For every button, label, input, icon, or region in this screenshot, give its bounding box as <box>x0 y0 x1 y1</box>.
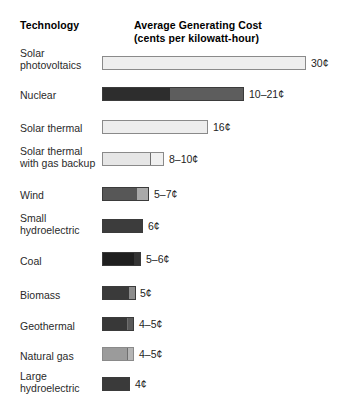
technology-label: Natural gas <box>20 350 74 362</box>
cost-bar <box>102 252 141 266</box>
technology-label: Coal <box>20 255 42 267</box>
cost-value-label: 16¢ <box>213 120 231 134</box>
cost-bar <box>102 317 134 331</box>
cost-bar-segment <box>127 348 133 360</box>
cost-bar <box>102 56 306 70</box>
technology-label: Solar thermal with gas backup <box>20 145 95 169</box>
cost-value-label: 5¢ <box>140 286 152 300</box>
cost-bar-segment <box>137 188 148 200</box>
technology-label: Solar thermal <box>20 122 82 134</box>
technology-label: Nuclear <box>20 89 56 101</box>
cost-bar-segment <box>134 253 140 265</box>
generating-cost-chart: Technology Average Generating Cost (cent… <box>0 0 337 404</box>
cost-bar-segment <box>150 153 163 165</box>
cost-bar <box>102 187 149 201</box>
column-header-cost: Average Generating Cost (cents per kilow… <box>134 19 334 44</box>
cost-bar-segment <box>103 121 207 133</box>
column-header-technology: Technology <box>20 19 79 32</box>
cost-value-label: 4¢ <box>135 377 147 391</box>
cost-bar <box>102 219 143 233</box>
cost-bar-segment <box>103 287 129 299</box>
cost-bar-segment <box>103 318 127 330</box>
chart-subtitle: (cents per kilowatt-hour) <box>134 32 334 45</box>
technology-label: Biomass <box>20 289 60 301</box>
cost-value-label: 10–21¢ <box>249 87 284 101</box>
cost-value-label: 30¢ <box>311 56 329 70</box>
cost-value-label: 4–5¢ <box>139 347 162 361</box>
cost-bar-segment <box>103 188 137 200</box>
technology-label: Wind <box>20 189 44 201</box>
cost-value-label: 5–6¢ <box>146 252 169 266</box>
cost-bar <box>102 377 130 391</box>
cost-bar-segment <box>129 287 135 299</box>
cost-bar-segment <box>103 220 142 232</box>
cost-bar <box>102 152 164 166</box>
technology-label: Small hydroelectric <box>20 212 80 236</box>
cost-bar <box>102 120 208 134</box>
cost-value-label: 8–10¢ <box>169 152 198 166</box>
cost-value-label: 6¢ <box>148 219 160 233</box>
cost-bar-segment <box>103 378 129 390</box>
cost-bar <box>102 286 136 300</box>
cost-bar-segment <box>127 318 133 330</box>
cost-bar-segment <box>103 57 305 69</box>
cost-bar-segment <box>103 88 170 100</box>
cost-bar-segment <box>103 348 127 360</box>
cost-bar-segment <box>103 253 134 265</box>
technology-label: Large hydroelectric <box>20 370 80 394</box>
cost-bar <box>102 87 244 101</box>
chart-title: Average Generating Cost <box>134 19 334 32</box>
cost-bar-segment <box>170 88 243 100</box>
technology-label: Solar photovoltaics <box>20 47 81 71</box>
cost-bar-segment <box>103 153 150 165</box>
cost-value-label: 5–7¢ <box>154 187 177 201</box>
technology-label: Geothermal <box>20 320 75 332</box>
cost-value-label: 4–5¢ <box>139 317 162 331</box>
cost-bar <box>102 347 134 361</box>
